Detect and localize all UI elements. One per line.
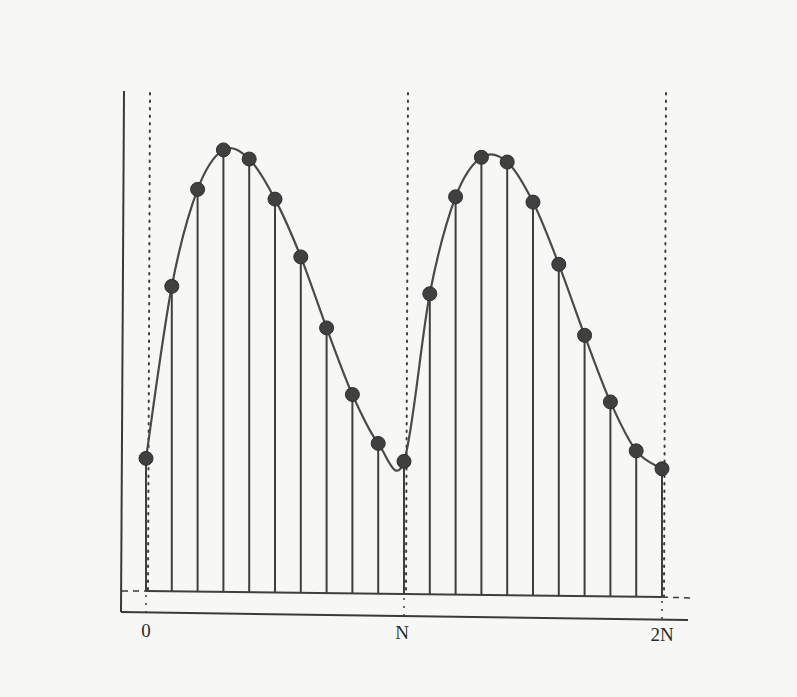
sample-dot — [655, 462, 669, 476]
sample-dot — [578, 328, 592, 342]
x-tick-label-zero: 0 — [141, 620, 151, 642]
sample-dot — [320, 321, 334, 335]
sample-dot — [397, 454, 411, 468]
stem-plot — [0, 0, 797, 697]
period-marker-line — [148, 93, 150, 591]
sample-dot — [423, 287, 437, 301]
sample-dot — [526, 195, 540, 209]
sample-dot — [242, 152, 256, 166]
y-axis-line — [121, 91, 124, 612]
period-marker-line — [664, 93, 666, 597]
stems — [146, 150, 662, 597]
sample-dot — [191, 182, 205, 196]
sample-dot — [500, 155, 514, 169]
sample-dot — [139, 451, 153, 465]
sample-dot — [474, 150, 488, 164]
baseline-dashed-right — [662, 597, 690, 598]
sample-dot — [165, 279, 179, 293]
period-marker-line — [406, 93, 408, 594]
sample-dot — [268, 192, 282, 206]
sample-dot — [294, 250, 308, 264]
sample-dot — [216, 143, 230, 157]
sample-dot — [552, 257, 566, 271]
sample-dot — [371, 436, 385, 450]
sample-dot — [629, 444, 643, 458]
x-tick-label-2n: 2N — [650, 624, 673, 646]
sample-dots — [139, 143, 669, 476]
sample-dot — [603, 395, 617, 409]
sample-dot — [449, 190, 463, 204]
x-tick-label-n: N — [395, 622, 409, 644]
sample-dot — [345, 388, 359, 402]
